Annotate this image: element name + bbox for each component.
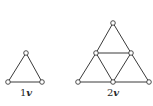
vertex-node [40,80,45,85]
vertex-node [129,51,134,56]
vertices [6,51,45,85]
edge [8,53,26,82]
vertex-node [147,80,152,85]
edge [96,53,113,82]
edge [131,53,149,82]
label-1v: 1v [20,87,32,98]
edge [113,23,131,53]
vertex-node [111,80,116,85]
edge [113,53,131,82]
edge [96,23,113,53]
edge [26,53,42,82]
vertex-node [111,21,116,26]
edges [78,23,149,82]
vertex-node [24,51,29,56]
triangle-frequency-1: 1v [6,51,45,98]
geodesic-subdivision-diagram: 1v 2v [0,0,153,106]
label-2v: 2v [107,87,119,98]
vertex-node [94,51,99,56]
triangle-frequency-2: 2v [76,21,152,98]
edges [8,53,42,82]
edge [78,53,96,82]
vertex-node [76,80,81,85]
vertex-node [6,80,11,85]
